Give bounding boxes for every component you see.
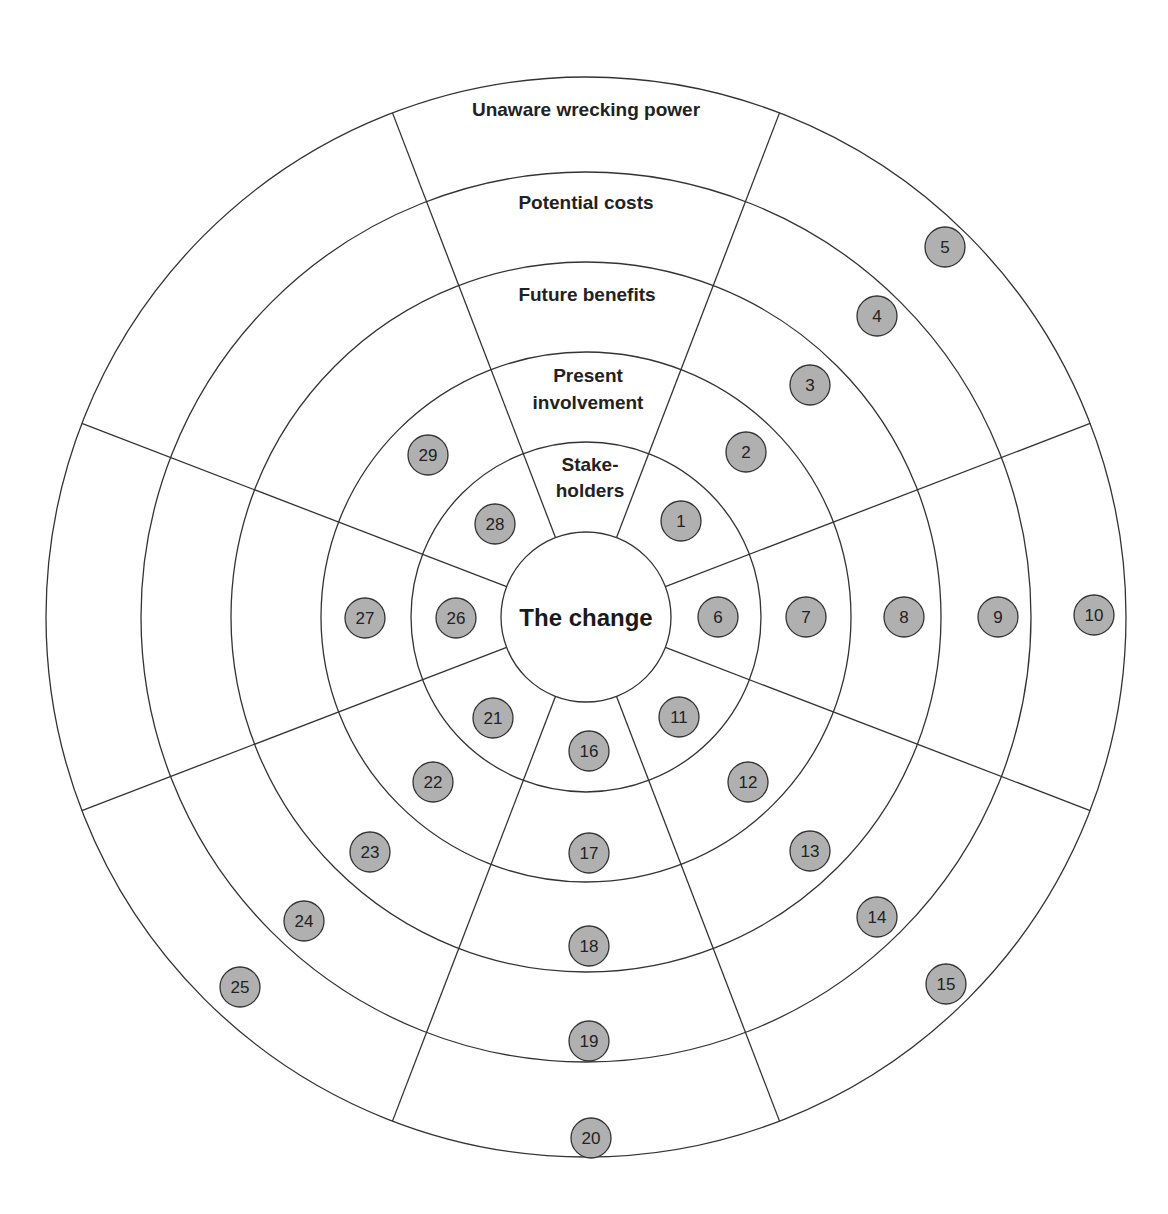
node-number: 21	[484, 709, 503, 728]
node-number: 28	[486, 515, 505, 534]
node-number: 4	[872, 307, 881, 326]
node-number: 19	[580, 1032, 599, 1051]
node-number: 2	[741, 443, 750, 462]
node-number: 25	[231, 978, 250, 997]
svg-text:involvement: involvement	[533, 392, 645, 413]
node-number: 1	[676, 512, 685, 531]
stakeholder-node-27: 27	[345, 598, 385, 638]
stakeholder-node-2: 2	[726, 432, 766, 472]
node-number: 18	[580, 937, 599, 956]
spoke-line	[392, 696, 555, 1121]
center-label: The change	[519, 604, 652, 631]
node-number: 15	[937, 975, 956, 994]
node-number: 27	[356, 609, 375, 628]
node-number: 9	[993, 608, 1002, 627]
stakeholder-node-9: 9	[978, 597, 1018, 637]
stakeholder-node-5: 5	[925, 227, 965, 267]
stakeholder-node-13: 13	[790, 831, 830, 871]
stakeholder-node-24: 24	[284, 901, 324, 941]
node-number: 29	[419, 446, 438, 465]
stakeholder-node-18: 18	[569, 926, 609, 966]
stakeholder-node-3: 3	[790, 365, 830, 405]
ring-label-stakeholders: Stake- holders	[556, 454, 625, 501]
stakeholder-node-11: 11	[659, 697, 699, 737]
stakeholder-node-25: 25	[220, 967, 260, 1007]
stakeholder-node-6: 6	[698, 597, 738, 637]
stakeholder-node-20: 20	[571, 1118, 611, 1158]
stakeholder-node-23: 23	[350, 832, 390, 872]
stakeholder-node-7: 7	[786, 597, 826, 637]
node-number: 16	[580, 742, 599, 761]
node-number: 22	[424, 773, 443, 792]
node-number: 6	[713, 608, 722, 627]
ring-label-future-benefits: Future benefits	[518, 284, 655, 305]
spoke-line	[392, 113, 555, 538]
stakeholder-node-22: 22	[413, 762, 453, 802]
node-number: 7	[801, 608, 810, 627]
stakeholder-node-28: 28	[475, 504, 515, 544]
stakeholder-node-29: 29	[408, 435, 448, 475]
node-number: 14	[868, 908, 887, 927]
stakeholder-node-8: 8	[884, 597, 924, 637]
ring-label-present-involvement: Present involvement	[533, 365, 645, 413]
stakeholder-node-10: 10	[1074, 595, 1114, 635]
stakeholder-node-4: 4	[857, 296, 897, 336]
ring-label-potential-costs: Potential costs	[518, 192, 653, 213]
stakeholder-node-14: 14	[857, 897, 897, 937]
stakeholder-node-15: 15	[926, 964, 966, 1004]
stakeholder-node-12: 12	[728, 762, 768, 802]
stakeholder-radar-diagram: The change Stake- holders Present involv…	[0, 0, 1168, 1214]
stakeholder-node-1: 1	[661, 501, 701, 541]
stakeholder-node-21: 21	[473, 698, 513, 738]
spoke-line	[616, 696, 779, 1121]
node-number: 17	[580, 844, 599, 863]
node-number: 5	[940, 238, 949, 257]
node-number: 26	[447, 609, 466, 628]
stakeholder-nodes: 1234567891011121314151617181920212223242…	[220, 227, 1114, 1158]
stakeholder-node-26: 26	[436, 598, 476, 638]
spoke-line	[616, 113, 779, 538]
node-number: 8	[899, 608, 908, 627]
ring-label-unaware-wrecking-power: Unaware wrecking power	[472, 99, 701, 120]
svg-text:Stake-: Stake-	[561, 454, 618, 475]
node-number: 3	[805, 376, 814, 395]
node-number: 11	[670, 708, 688, 727]
svg-text:holders: holders	[556, 480, 625, 501]
svg-text:Present: Present	[553, 365, 623, 386]
stakeholder-node-17: 17	[569, 833, 609, 873]
node-number: 10	[1085, 606, 1104, 625]
node-number: 20	[582, 1129, 601, 1148]
node-number: 12	[739, 773, 758, 792]
node-number: 24	[295, 912, 314, 931]
stakeholder-node-19: 19	[569, 1021, 609, 1061]
node-number: 13	[801, 842, 820, 861]
node-number: 23	[361, 843, 380, 862]
stakeholder-node-16: 16	[569, 731, 609, 771]
